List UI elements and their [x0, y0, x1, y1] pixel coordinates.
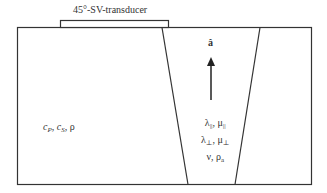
wedge-property-line-3: ν, ρa — [201, 150, 229, 167]
subscript-s: S — [61, 126, 65, 134]
subscript-parallel: || — [210, 122, 213, 130]
wedge-properties: λ||, μ|| λ⊥, μ⊥ ν, ρa — [201, 116, 229, 167]
wedge-left-boundary — [162, 28, 188, 185]
symbol-rho: ρ — [70, 121, 75, 132]
unit-vector-arrow-icon — [207, 57, 215, 100]
wedge-property-line-2: λ⊥, μ⊥ — [201, 133, 229, 150]
specimen-block — [18, 28, 312, 185]
subscript-p: P — [47, 126, 51, 134]
unit-vector-label: â — [208, 38, 213, 48]
subscript-perp: ⊥ — [206, 139, 213, 147]
diagram-canvas — [0, 0, 327, 193]
subscript-parallel: || — [223, 122, 226, 130]
transducer-label: 45°-SV-transducer — [73, 5, 147, 15]
outer-medium-properties: cP, cS, ρ — [43, 122, 75, 134]
wedge-right-boundary — [235, 28, 260, 185]
symbol-nu: ν — [206, 151, 211, 162]
wedge-property-line-1: λ||, μ|| — [201, 116, 229, 133]
transducer — [61, 21, 169, 28]
subscript-a: a — [221, 156, 224, 164]
subscript-perp: ⊥ — [223, 139, 230, 147]
